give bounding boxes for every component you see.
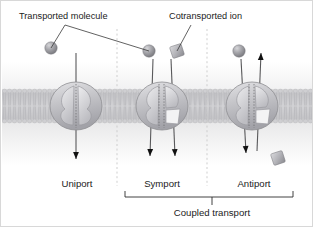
mode-label-uniport: Uniport [62,178,93,189]
transported-molecule-leader-1 [65,25,149,51]
antiport-arrowhead-1 [258,53,264,60]
transporter-body-symport [136,82,188,130]
mode-label-antiport: Antiport [237,178,270,189]
transported-molecule-leader-0 [51,25,65,48]
transporter-proteins [50,82,278,130]
transporter-body-antiport [226,82,278,130]
antiport-transported-molecule-0 [233,45,245,57]
coupled-transport-bracket [125,191,293,205]
callout-label-transported-molecule: Transported molecule [19,11,108,21]
membrane-transport-figure: Transported molecule Cotransported ion U… [0,0,313,227]
cotransported-ion-leader-0 [177,25,191,51]
transporter-body-uniport [50,82,102,130]
callout-label-cotransported-ion: Cotransported ion [169,11,242,21]
mode-label-symport: Symport [144,178,180,189]
bracket-span [125,191,293,197]
diagram-canvas: Transported molecule Cotransported ion U… [1,1,313,227]
group-label-coupled-transport: Coupled transport [174,207,251,218]
